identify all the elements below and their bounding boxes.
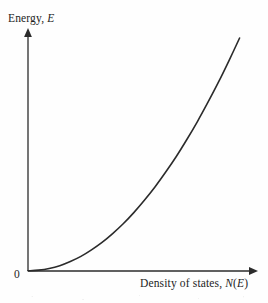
density-of-states-curve: [28, 38, 240, 271]
x-axis-label: Density of states, N(E): [140, 277, 248, 289]
y-axis-symbol: E: [47, 12, 54, 24]
origin-label: 0: [14, 268, 20, 280]
x-axis-close-paren: ): [244, 277, 248, 289]
y-axis-arrow-icon: [24, 28, 32, 37]
scan-noise-band: [0, 292, 268, 303]
density-of-states-figure: Energy, E Density of states, N(E) 0: [0, 0, 268, 303]
plot-canvas: [0, 0, 268, 303]
y-axis-label-text: Energy,: [8, 12, 44, 24]
x-axis-label-text: Density of states,: [140, 277, 222, 289]
x-axis-arrow-icon: [249, 267, 258, 275]
x-axis-symbol-n: N: [225, 277, 233, 289]
y-axis-label: Energy, E: [8, 12, 54, 24]
